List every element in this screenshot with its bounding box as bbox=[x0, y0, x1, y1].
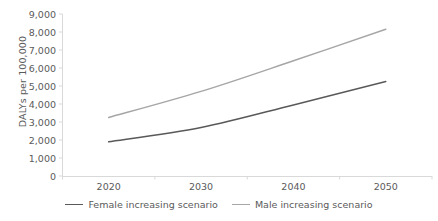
series-lines bbox=[109, 29, 386, 142]
axis-lines bbox=[62, 14, 432, 177]
line-chart: DALYs per 100,000 01,0002,0003,0004,0005… bbox=[0, 0, 438, 221]
legend-swatch-male bbox=[232, 204, 250, 205]
legend-item-female[interactable]: Female increasing scenario bbox=[65, 199, 218, 210]
legend-label-male: Male increasing scenario bbox=[255, 199, 373, 210]
chart-legend: Female increasing scenario Male increasi… bbox=[0, 199, 438, 210]
x-axis-tick-label: 2030 bbox=[189, 181, 213, 192]
legend-swatch-female bbox=[65, 204, 83, 205]
series-line bbox=[109, 29, 386, 117]
legend-label-female: Female increasing scenario bbox=[88, 199, 218, 210]
legend-item-male[interactable]: Male increasing scenario bbox=[232, 199, 373, 210]
y-axis-ticks bbox=[59, 14, 63, 176]
series-line bbox=[109, 82, 386, 142]
x-axis-tick-label: 2020 bbox=[97, 181, 121, 192]
x-axis-tick-labels: 2020203020402050 bbox=[0, 181, 438, 197]
x-axis-tick-label: 2050 bbox=[374, 181, 398, 192]
x-axis-tick-label: 2040 bbox=[281, 181, 305, 192]
